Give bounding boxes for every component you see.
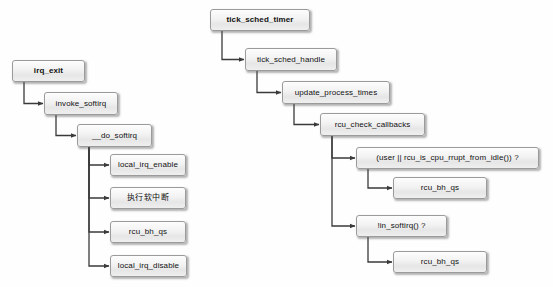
node-label: invoke_softirq: [56, 100, 107, 108]
node-rcu_bh_qs_r2: rcu_bh_qs: [393, 251, 487, 273]
node-update_process_times: update_process_times: [282, 81, 390, 104]
node-label: rcu_bh_qs: [421, 184, 459, 192]
edge-rcu_check_callbacks-to-not_in_softirq: [332, 136, 355, 226]
edge-__do_softirq-to-rcu_bh_qs_left: [89, 147, 109, 232]
node-label: local_irq_disable: [118, 262, 179, 270]
edge-tick_sched_timer-to-tick_sched_handle: [222, 31, 244, 60]
node-label: (user || rcu_is_cpu_rrupt_from_idle()) ?: [376, 154, 518, 162]
node-exec_softirq_cn: 执行软中断: [110, 187, 186, 209]
node-label: irq_exit: [34, 67, 63, 75]
edge-rcu_check_callbacks-to-user_or_rrupt: [332, 136, 355, 158]
node-label: tick_sched_handle: [257, 56, 325, 64]
node-user_or_rrupt: (user || rcu_is_cpu_rrupt_from_idle()) ?: [356, 147, 539, 169]
edge-__do_softirq-to-local_irq_disable: [89, 147, 109, 266]
node-rcu_bh_qs_left: rcu_bh_qs: [110, 221, 186, 243]
node-local_irq_enable: local_irq_enable: [110, 154, 186, 176]
node-label: rcu_bh_qs: [129, 228, 167, 236]
node-not_in_softirq: !in_softirq() ?: [356, 215, 447, 237]
node-irq_exit: irq_exit: [12, 60, 85, 82]
edge-__do_softirq-to-exec_softirq_cn: [89, 147, 109, 198]
node-label: rcu_check_callbacks: [335, 121, 411, 129]
node-label: local_irq_enable: [118, 161, 178, 169]
edge-not_in_softirq-to-rcu_bh_qs_r2: [368, 237, 392, 262]
edge-__do_softirq-to-local_irq_enable: [89, 147, 109, 165]
node-tick_sched_timer: tick_sched_timer: [210, 9, 310, 31]
node-label: tick_sched_timer: [227, 16, 294, 24]
diagram-canvas: irq_exitinvoke_softirq__do_softirqlocal_…: [0, 0, 553, 287]
edge-update_process_times-to-rcu_check_callbacks: [294, 104, 319, 125]
node-label: __do_softirq: [92, 132, 137, 140]
node-label: rcu_bh_qs: [421, 258, 459, 266]
node-label: 执行软中断: [127, 194, 170, 202]
edge-tick_sched_handle-to-update_process_times: [257, 71, 281, 93]
edge-user_or_rrupt-to-rcu_bh_qs_r1: [368, 169, 392, 188]
node-invoke_softirq: invoke_softirq: [44, 92, 118, 115]
node-label: update_process_times: [295, 89, 378, 97]
node-rcu_check_callbacks: rcu_check_callbacks: [320, 113, 425, 136]
node-rcu_bh_qs_r1: rcu_bh_qs: [393, 177, 487, 199]
edge-invoke_softirq-to-__do_softirq: [56, 115, 76, 136]
node-local_irq_disable: local_irq_disable: [110, 255, 187, 277]
edge-irq_exit-to-invoke_softirq: [24, 82, 43, 104]
node-tick_sched_handle: tick_sched_handle: [245, 48, 337, 71]
node-__do_softirq: __do_softirq: [77, 124, 152, 147]
node-label: !in_softirq() ?: [377, 222, 425, 230]
